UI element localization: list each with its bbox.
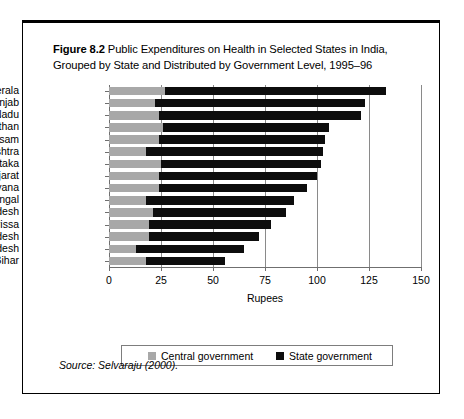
- figure-frame: Figure 8.2 Public Expenditures on Health…: [22, 22, 440, 394]
- y-tick: [105, 103, 109, 104]
- bar-segment-state: [155, 99, 365, 108]
- bar-segment-state: [159, 111, 361, 120]
- x-axis-title: Rupees: [109, 292, 421, 304]
- bar-row: [109, 147, 421, 156]
- bar-segment-state: [146, 196, 294, 205]
- y-tick: [105, 152, 109, 153]
- bar-segment-central: [109, 232, 149, 241]
- bar-segment-state: [163, 123, 329, 132]
- bar-row: [109, 111, 421, 120]
- bar-segment-state: [149, 220, 272, 229]
- x-tick-label: 0: [106, 274, 112, 286]
- y-tick: [105, 225, 109, 226]
- source-note: Source: Selvaraju (2000).: [59, 359, 178, 371]
- y-axis-label: Bihar: [0, 255, 19, 266]
- bar-segment-state: [136, 245, 244, 254]
- y-axis-label: Karnataka: [0, 158, 19, 169]
- x-tick: [161, 267, 162, 271]
- chart-plot-area: 0255075100125150 Rupees: [109, 85, 421, 267]
- bar-row: [109, 135, 421, 144]
- bar-segment-central: [109, 160, 161, 169]
- bar-row: [109, 160, 421, 169]
- y-axis-label: Andhra Pradesh: [0, 206, 19, 217]
- source-reference: Selvaraju (2000).: [95, 359, 178, 371]
- x-tick-label: 50: [207, 274, 219, 286]
- bar-row: [109, 245, 421, 254]
- y-axis-label: West Bengal: [0, 194, 19, 205]
- x-tick-label: 100: [308, 274, 326, 286]
- bar-segment-central: [109, 111, 159, 120]
- bar-segment-central: [109, 245, 136, 254]
- bar-segment-central: [109, 257, 146, 266]
- x-tick-label: 25: [155, 274, 167, 286]
- y-axis-label: Madhya Pradesh: [0, 243, 19, 254]
- bar-segment-state: [165, 87, 385, 96]
- y-tick: [105, 249, 109, 250]
- bar-segment-central: [109, 123, 163, 132]
- bar-row: [109, 99, 421, 108]
- y-axis-label: Gujarat: [0, 170, 19, 181]
- y-tick: [105, 91, 109, 92]
- bar-segment-central: [109, 172, 159, 181]
- bar-segment-central: [109, 196, 146, 205]
- y-tick: [105, 237, 109, 238]
- bar-segment-central: [109, 208, 153, 217]
- bar-segment-central: [109, 99, 155, 108]
- x-tick-label: 75: [259, 274, 271, 286]
- y-axis-label: Uttar Pradesh: [0, 231, 19, 242]
- y-tick: [105, 200, 109, 201]
- y-axis-label: Assam: [0, 134, 19, 145]
- state-government-swatch-icon: [276, 352, 284, 360]
- x-tick: [317, 267, 318, 271]
- bar-row: [109, 220, 421, 229]
- y-axis-label: Haryana: [0, 182, 19, 193]
- bar-row: [109, 196, 421, 205]
- bar-segment-state: [146, 147, 323, 156]
- bar-segment-central: [109, 87, 165, 96]
- y-tick: [105, 140, 109, 141]
- y-tick: [105, 176, 109, 177]
- bar-row: [109, 123, 421, 132]
- bar-row: [109, 184, 421, 193]
- bar-segment-state: [149, 232, 259, 241]
- y-axis-label: Tamil Nadu: [0, 109, 19, 120]
- y-tick: [105, 212, 109, 213]
- figure-caption: Figure 8.2 Public Expenditures on Health…: [53, 41, 415, 73]
- y-axis-labels: KeralaPunjabTamil NaduRajasthanAssamMaha…: [0, 85, 19, 267]
- bar-segment-state: [159, 172, 317, 181]
- x-tick: [109, 267, 110, 271]
- figure-number: Figure 8.2: [53, 43, 105, 55]
- x-tick-label: 125: [360, 274, 378, 286]
- bar-segment-central: [109, 147, 146, 156]
- bar-segment-state: [146, 257, 225, 266]
- bar-segment-state: [161, 160, 321, 169]
- x-tick: [265, 267, 266, 271]
- bar-row: [109, 232, 421, 241]
- bar-row: [109, 87, 421, 96]
- legend-label-state: State government: [289, 350, 372, 362]
- bar-segment-central: [109, 184, 159, 193]
- y-axis-label: Punjab: [0, 97, 19, 108]
- bar-segment-central: [109, 220, 149, 229]
- bar-row: [109, 257, 421, 266]
- gridline: [421, 85, 422, 267]
- y-axis-label: Rajasthan: [0, 121, 19, 132]
- source-label: Source:: [59, 359, 95, 371]
- y-tick: [105, 127, 109, 128]
- y-tick: [105, 115, 109, 116]
- bar-row: [109, 172, 421, 181]
- bar-segment-state: [159, 135, 325, 144]
- bar-segment-state: [153, 208, 286, 217]
- bar-segment-central: [109, 135, 159, 144]
- x-tick: [369, 267, 370, 271]
- bar-segment-state: [159, 184, 307, 193]
- x-tick: [421, 267, 422, 271]
- y-axis-label: Maharashtra: [0, 146, 19, 157]
- y-axis-label: Orissa: [0, 219, 19, 230]
- y-tick: [105, 188, 109, 189]
- x-tick: [213, 267, 214, 271]
- legend-item-state: State government: [276, 350, 372, 362]
- bar-row: [109, 208, 421, 217]
- y-axis-label: Kerala: [0, 85, 19, 96]
- y-tick: [105, 164, 109, 165]
